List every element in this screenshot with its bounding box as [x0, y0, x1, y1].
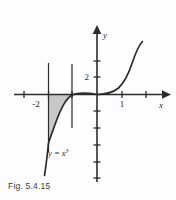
- cubic-function-plot: y x -2 1 2 y = x3: [0, 0, 176, 200]
- y-axis-arrowhead: [93, 25, 102, 34]
- y-tick-label-2: 2: [85, 72, 90, 82]
- x-tick-label-minus2: -2: [32, 99, 40, 109]
- x-tick-label-1: 1: [120, 99, 125, 109]
- figure-container: y x -2 1 2 y = x3 Fig. 5.4.15: [0, 0, 176, 200]
- x-axis-label: x: [158, 100, 163, 110]
- shaded-area-region: [49, 95, 73, 144]
- y-axis-label: y: [102, 30, 107, 40]
- figure-caption: Fig. 5.4.15: [8, 181, 50, 191]
- curve-equation-base: y = x: [47, 148, 66, 158]
- curve-equation-label: y = x3: [47, 148, 69, 158]
- curve-equation-exponent: 3: [65, 148, 69, 154]
- x-axis-arrowhead: [162, 90, 171, 99]
